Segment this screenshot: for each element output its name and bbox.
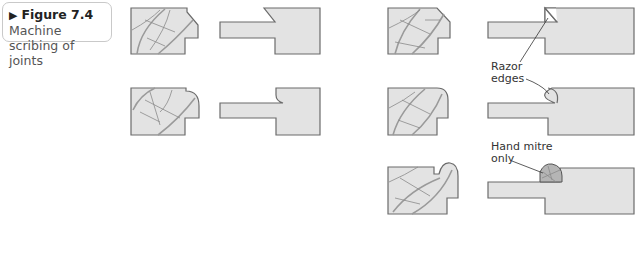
razor-label-line2: edges	[491, 72, 524, 85]
stile-ovolo-left	[131, 88, 199, 135]
rail-scribed-row2-right	[488, 88, 634, 135]
rail-plain-row2-left	[220, 88, 320, 135]
stile-ovolo-right	[388, 88, 448, 135]
stile-chamfer-left	[131, 8, 198, 54]
stile-bead-right	[388, 163, 458, 214]
stile-chamfer-right	[388, 8, 450, 54]
mitre-label-line2: only	[491, 152, 514, 165]
rail-plain-row1-left	[220, 8, 320, 54]
rail-scribed-row1-right	[488, 8, 634, 54]
razor-edges-label: Razor edges	[491, 61, 524, 85]
razor-leader-line-2	[526, 79, 549, 94]
rail-mitred-row3-right	[488, 164, 634, 214]
hand-mitre-label: Hand mitre only	[491, 141, 553, 165]
joint-diagram: .p { fill:#e3e3e3; stroke:#6b6b6b; strok…	[0, 0, 636, 271]
